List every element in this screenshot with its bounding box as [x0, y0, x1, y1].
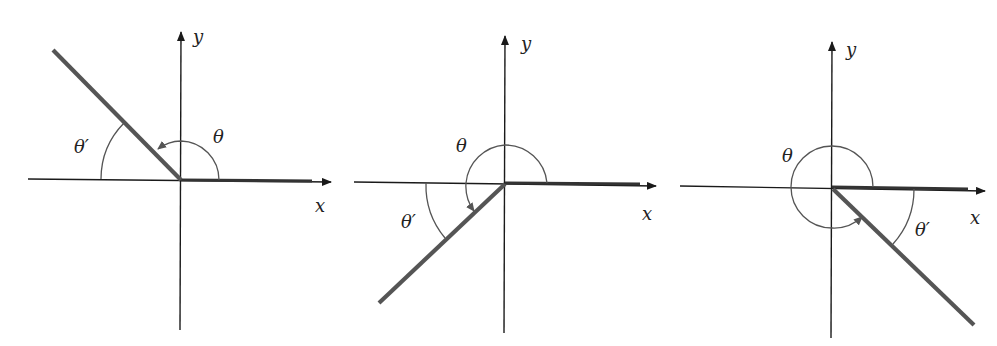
theta-label: θ — [456, 135, 467, 156]
theta-label: θ — [782, 145, 793, 166]
theta-arc — [158, 141, 219, 180]
reference-angle-arc — [426, 183, 445, 238]
theta-label: θ — [213, 126, 224, 147]
initial-side — [832, 187, 968, 189]
x-axis-label: x — [315, 195, 325, 216]
panel-quadrant-iv: y x θ θ′ — [680, 39, 985, 338]
panel-quadrant-iii: y x θ θ′ — [354, 33, 656, 333]
terminal-side — [53, 50, 181, 180]
reference-angle-label: θ′ — [401, 211, 416, 232]
x-axis-label: x — [642, 203, 652, 224]
y-axis — [831, 42, 832, 338]
reference-angle-arc — [101, 123, 124, 179]
y-axis — [180, 32, 181, 330]
y-axis-label: y — [520, 33, 532, 54]
terminal-side — [833, 189, 974, 325]
terminal-side — [379, 184, 505, 303]
theta-arc — [466, 145, 547, 211]
panel-quadrant-ii: y x θ θ′ — [28, 26, 331, 330]
reference-angle-label: θ′ — [74, 136, 89, 157]
x-axis-label: x — [970, 207, 980, 228]
reference-angle-arc — [893, 189, 914, 244]
reference-angle-label: θ′ — [915, 219, 930, 240]
y-axis-label: y — [845, 39, 857, 60]
y-axis-label: y — [192, 26, 204, 47]
initial-side — [505, 183, 640, 184]
initial-side — [181, 180, 312, 181]
reference-angle-figure: y x θ θ′ y x θ θ′ y x θ θ′ — [0, 0, 997, 346]
